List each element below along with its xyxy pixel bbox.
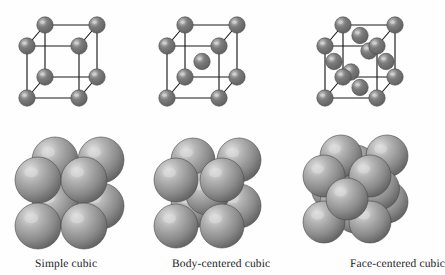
corner-sphere [317,90,333,106]
face-center-sphere [378,53,394,69]
face-center-sphere [352,27,368,43]
ball-and-stick-model-face-centered-cubic [310,10,438,125]
ball-and-stick-wrapper-face-centered-cubic [310,10,438,125]
corner-sphere [387,69,403,85]
corner-sphere [369,38,385,54]
face-center-sphere [326,178,368,220]
corner-sphere [317,38,333,54]
space-filling-wrapper-face-centered-cubic [306,136,438,246]
corner-sphere [335,69,351,85]
face-center-sphere [326,53,342,69]
corner-sphere [387,17,403,33]
face-center-sphere [352,79,368,95]
caption-face-centered-cubic: Face-centered cubic [350,258,445,270]
corner-sphere [369,90,385,106]
corner-sphere [335,17,351,33]
space-filling-model-face-centered-cubic [306,136,438,246]
